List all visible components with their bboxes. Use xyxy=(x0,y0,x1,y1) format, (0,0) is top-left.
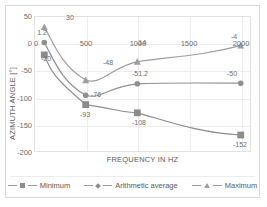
x-tick-1500: 1500 xyxy=(181,39,198,48)
data-label-maximum-p3: -4 xyxy=(231,33,237,40)
legend-item-arithmetic-average[interactable]: Arithmetic average xyxy=(84,181,178,190)
chart-legend: Minimum Arithmetic average Maximum xyxy=(10,176,255,190)
diamond-marker-icon xyxy=(95,183,101,189)
legend-label-minimum: Minimum xyxy=(40,181,70,190)
marker-average-p3 xyxy=(238,80,244,86)
x-tick-2000: 2000 xyxy=(233,39,250,48)
legend-line-icon xyxy=(28,185,37,186)
data-label-minimum-p1: -93 xyxy=(80,111,90,118)
marker-average-p1 xyxy=(83,93,89,99)
chart-container: 50 0 -50 -100 -150 -200 xyxy=(0,0,267,207)
marker-minimum-p2 xyxy=(134,109,141,116)
square-marker-icon xyxy=(20,183,25,188)
marker-average-p0 xyxy=(42,40,48,46)
legend-line-icon xyxy=(84,185,93,186)
x-tick-500: 500 xyxy=(80,39,93,48)
marker-minimum-p3 xyxy=(237,132,244,139)
legend-line-icon xyxy=(103,185,112,186)
data-label-minimum-p0: -20 xyxy=(41,55,51,62)
marker-maximum-p1 xyxy=(82,77,89,84)
marker-average-p2 xyxy=(135,81,141,87)
legend-item-minimum[interactable]: Minimum xyxy=(8,181,70,190)
y-axis-title: AZIMUTH ANGLE [°] xyxy=(8,30,17,140)
legend-label-maximum: Maximum xyxy=(225,181,258,190)
x-axis-title: FREQUENCY IN HZ xyxy=(34,155,251,164)
legend-item-maximum[interactable]: Maximum xyxy=(192,181,258,190)
legend-label-arithmetic-average: Arithmetic average xyxy=(115,181,178,190)
marker-minimum-p1 xyxy=(82,101,89,108)
legend-line-icon xyxy=(192,185,201,186)
data-label-minimum-p3: -152 xyxy=(233,141,247,148)
data-label-minimum-p2: -108 xyxy=(132,119,146,126)
x-tick-0: 0 xyxy=(34,39,38,48)
data-label-average-p2: -51.2 xyxy=(132,70,148,77)
data-label-maximum-p1: -48 xyxy=(103,59,113,66)
data-label-average-p3: -50 xyxy=(227,70,237,77)
legend-line-icon xyxy=(213,185,222,186)
data-label-average-p1: -76 xyxy=(91,91,101,98)
triangle-marker-icon xyxy=(204,183,210,188)
data-label-maximum-p2: -14 xyxy=(136,39,146,46)
legend-line-icon xyxy=(8,185,17,186)
data-label-average-p0: 1.2 xyxy=(37,29,47,36)
data-label-maximum-p0: 30 xyxy=(66,14,74,21)
